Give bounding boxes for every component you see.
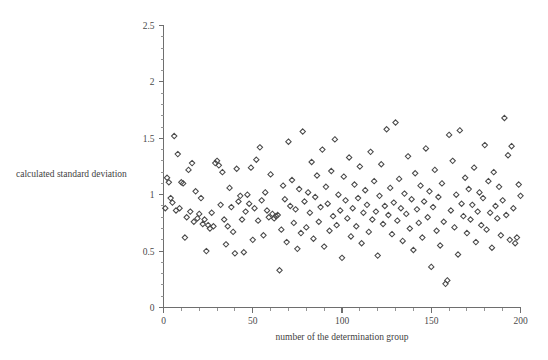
data-point-marker — [375, 253, 380, 258]
data-point-marker — [343, 198, 348, 203]
data-point-marker — [225, 224, 230, 229]
data-point-marker — [454, 192, 459, 197]
data-point-marker — [184, 215, 189, 220]
y-tick-label: 1 — [150, 190, 155, 200]
data-point-marker — [461, 213, 466, 218]
data-point-marker — [313, 194, 318, 199]
data-point-marker — [188, 209, 193, 214]
data-point-marker — [489, 245, 494, 250]
data-point-marker — [198, 195, 203, 200]
data-point-marker — [471, 165, 476, 170]
data-point-marker — [396, 176, 401, 181]
data-point-marker — [439, 181, 444, 186]
data-point-marker — [323, 184, 328, 189]
data-point-marker — [204, 248, 209, 253]
data-point-marker — [382, 203, 387, 208]
data-point-marker — [361, 210, 366, 215]
data-point-marker — [477, 190, 482, 195]
data-point-marker — [509, 143, 514, 148]
data-point-marker — [495, 216, 500, 221]
data-point-marker — [496, 184, 501, 189]
data-point-marker — [468, 217, 473, 222]
data-point-marker — [462, 175, 467, 180]
data-point-marker — [418, 183, 423, 188]
data-point-marker — [514, 235, 519, 240]
data-point-marker — [246, 201, 251, 206]
data-point-marker — [223, 242, 228, 247]
data-point-marker — [175, 151, 180, 156]
data-point-marker — [348, 234, 353, 239]
data-point-marker — [280, 183, 285, 188]
data-point-marker — [409, 197, 414, 202]
data-point-marker — [507, 237, 512, 242]
data-point-marker — [511, 206, 516, 211]
data-point-marker — [325, 201, 330, 206]
data-point-marker — [436, 194, 441, 199]
data-point-marker — [354, 224, 359, 229]
data-point-marker — [263, 190, 268, 195]
data-point-marker — [257, 145, 262, 150]
data-point-marker — [398, 206, 403, 211]
data-point-marker — [437, 243, 442, 248]
data-point-marker — [172, 133, 177, 138]
data-point-marker — [241, 250, 246, 255]
data-point-marker — [452, 225, 457, 230]
data-point-marker — [238, 193, 243, 198]
data-point-marker — [446, 132, 451, 137]
plot-canvas: 05010015020000.511.522.5number of the de… — [0, 0, 548, 360]
data-point-marker — [300, 129, 305, 134]
data-point-marker — [286, 139, 291, 144]
data-point-marker — [502, 115, 507, 120]
data-point-marker — [421, 199, 426, 204]
data-point-marker — [311, 236, 316, 241]
data-point-marker — [459, 201, 464, 206]
data-point-marker — [387, 185, 392, 190]
data-point-marker — [236, 199, 241, 204]
data-point-marker — [307, 210, 312, 215]
data-point-marker — [504, 212, 509, 217]
data-point-marker — [407, 226, 412, 231]
data-point-marker — [338, 208, 343, 213]
data-point-marker — [370, 217, 375, 222]
data-point-marker — [473, 239, 478, 244]
data-point-marker — [336, 192, 341, 197]
data-point-marker — [487, 210, 492, 215]
data-point-marker — [193, 189, 198, 194]
data-point-marker — [295, 246, 300, 251]
data-point-marker — [352, 182, 357, 187]
data-point-marker — [309, 159, 314, 164]
data-point-marker — [261, 233, 266, 238]
data-point-marker — [220, 169, 225, 174]
x-axis-title: number of the determination group — [276, 332, 409, 342]
data-point-marker — [327, 228, 332, 233]
data-point-marker — [289, 177, 294, 182]
data-point-marker — [364, 202, 369, 207]
data-point-marker — [182, 235, 187, 240]
x-tick-label: 100 — [335, 316, 350, 326]
data-point-marker — [357, 164, 362, 169]
data-point-marker — [493, 203, 498, 208]
data-point-marker — [239, 217, 244, 222]
data-point-marker — [475, 209, 480, 214]
data-point-marker — [414, 207, 419, 212]
data-point-marker — [400, 238, 405, 243]
data-point-marker — [359, 241, 364, 246]
data-point-marker — [371, 178, 376, 183]
data-point-marker — [518, 193, 523, 198]
data-point-marker — [332, 137, 337, 142]
data-point-marker — [350, 206, 355, 211]
data-point-marker — [334, 222, 339, 227]
data-point-marker — [232, 251, 237, 256]
data-point-marker — [482, 142, 487, 147]
data-point-marker — [293, 207, 298, 212]
data-point-marker — [189, 160, 194, 165]
axes — [159, 26, 521, 313]
data-point-marker — [255, 218, 260, 223]
data-point-marker — [330, 213, 335, 218]
data-point-marker — [450, 158, 455, 163]
data-point-marker — [259, 198, 264, 203]
data-point-marker — [464, 230, 469, 235]
data-point-marker — [209, 210, 214, 215]
data-point-marker — [282, 197, 287, 202]
data-point-marker — [316, 219, 321, 224]
